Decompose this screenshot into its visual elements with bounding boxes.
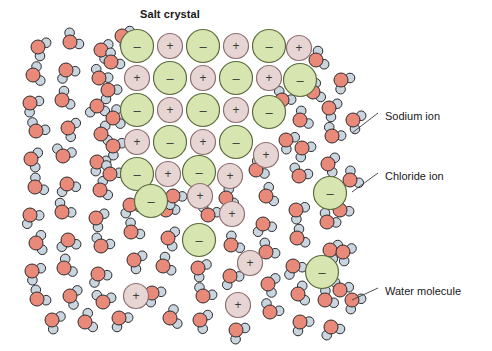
water-molecule	[285, 259, 307, 279]
oxygen-atom	[263, 305, 277, 319]
oxygen-atom	[92, 71, 106, 85]
oxygen-atom	[346, 113, 360, 127]
chloride-ion: –	[314, 177, 347, 210]
water-molecule	[259, 238, 280, 259]
sodium-ion: +	[156, 162, 181, 187]
oxygen-atom	[106, 111, 120, 125]
chloride-ion: –	[284, 64, 317, 97]
water-molecule	[293, 315, 314, 336]
water-molecule	[259, 182, 279, 205]
charge-symbol: +	[232, 39, 239, 53]
oxygen-atom	[293, 113, 307, 127]
oxygen-atom	[325, 129, 339, 143]
charge-symbol: +	[133, 71, 140, 85]
water-molecule	[55, 86, 75, 109]
water-molecule	[161, 227, 180, 251]
water-molecule	[57, 177, 80, 197]
leader-lines	[352, 113, 378, 300]
sodium-ion: +	[158, 98, 183, 123]
oxygen-atom	[256, 217, 270, 231]
charge-symbol: –	[147, 194, 155, 209]
oxygen-atom	[94, 127, 108, 141]
water-molecule	[262, 299, 284, 319]
charge-symbol: +	[232, 103, 239, 117]
charge-symbol: +	[132, 289, 139, 303]
oxygen-atom	[104, 55, 118, 69]
water-molecule	[324, 122, 346, 143]
water-molecule	[253, 217, 276, 237]
sodium-ion: +	[287, 36, 312, 61]
water-molecule	[28, 173, 49, 195]
chloride-ion: –	[187, 30, 220, 63]
oxygen-atom	[193, 313, 207, 327]
oxygen-atom	[24, 152, 38, 166]
oxygen-atom	[166, 189, 180, 203]
oxygen-atom	[30, 292, 44, 306]
oxygen-atom	[320, 215, 334, 229]
chloride-ion: –	[306, 256, 339, 289]
water-molecule	[24, 148, 43, 172]
oxygen-atom	[103, 167, 117, 181]
oxygen-atom	[91, 267, 105, 281]
sodium-ion: +	[158, 34, 183, 59]
oxygen-atom	[60, 177, 74, 191]
oxygen-atom	[55, 93, 69, 107]
charge-symbol: –	[265, 105, 273, 120]
oxygen-atom	[89, 211, 103, 225]
chloride-ion: –	[154, 62, 187, 95]
water-molecule	[336, 244, 356, 266]
water-molecule	[229, 323, 250, 344]
chloride-ion: –	[135, 185, 168, 218]
oxygen-atom	[309, 53, 323, 67]
oxygen-atom	[261, 277, 275, 291]
oxygen-atom	[23, 208, 37, 222]
water-molecule	[191, 260, 211, 282]
chloride-ion: –	[253, 96, 286, 129]
charge-symbol: +	[262, 148, 269, 162]
chloride-ion: –	[187, 94, 220, 127]
oxygen-atom	[63, 289, 77, 303]
water-molecule	[61, 118, 81, 141]
water-molecule	[290, 224, 310, 247]
charge-symbol: –	[232, 71, 240, 86]
water-molecule	[25, 263, 46, 285]
diagram-canvas: Salt crystal –+–+–++–+–+––+–+–+–+–+–+–+–…	[0, 0, 492, 351]
sodium-ion: +	[238, 251, 263, 276]
water-molecule	[334, 73, 355, 94]
oxygen-atom	[156, 259, 170, 273]
charge-symbol: +	[166, 103, 173, 117]
oxygen-atom	[324, 320, 338, 334]
water-molecule	[289, 202, 310, 224]
water-molecule	[343, 166, 364, 188]
water-molecule	[92, 290, 116, 309]
oxygen-atom	[25, 264, 39, 278]
water-molecule	[63, 28, 84, 49]
oxygen-atom	[333, 283, 347, 297]
water-molecule	[63, 286, 82, 310]
water-molecule	[163, 305, 182, 329]
oxygen-atom	[78, 315, 92, 329]
water-molecule	[92, 233, 115, 253]
water-molecule	[30, 285, 51, 306]
oxygen-atom	[112, 311, 126, 325]
charge-symbol: –	[133, 167, 141, 182]
water-molecule	[57, 233, 81, 252]
water-molecule	[195, 283, 217, 303]
oxygen-atom	[295, 141, 309, 155]
charge-symbol: +	[199, 71, 206, 85]
charge-symbol: +	[265, 71, 272, 85]
water-molecule	[106, 138, 127, 160]
water-molecule	[112, 311, 133, 332]
chloride-ion: –	[253, 30, 286, 63]
oxygen-atom	[23, 96, 37, 110]
water-molecule	[293, 106, 313, 128]
charge-symbol: –	[199, 39, 207, 54]
oxygen-atom	[323, 243, 337, 257]
oxygen-atom	[286, 259, 300, 273]
water-molecule	[45, 312, 65, 334]
charge-symbol: +	[246, 256, 253, 270]
oxygen-atom	[318, 293, 332, 307]
sodium-ion: +	[188, 184, 213, 209]
oxygen-atom	[55, 205, 69, 219]
sodium-ion: +	[254, 143, 279, 168]
